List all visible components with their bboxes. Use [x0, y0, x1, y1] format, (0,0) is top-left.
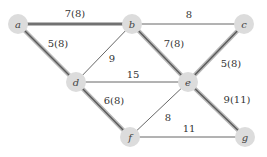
nodes-layer: abcdefg: [8, 14, 255, 147]
node-e: e: [178, 72, 198, 92]
flow-network-diagram: 7(8)5(8)897(8)5(8)156(8)89(11)11 abcdefg: [0, 0, 267, 157]
edge-label-a-d: 5(8): [48, 38, 69, 49]
node-c: c: [234, 14, 254, 34]
edge-d-f: [76, 82, 130, 137]
node-label-b: b: [129, 19, 135, 30]
edge-label-e-f: 8: [165, 112, 171, 123]
node-label-c: c: [241, 19, 247, 30]
edge-c-e: [188, 24, 244, 82]
node-a: a: [8, 14, 28, 34]
edge-e-f: [130, 82, 188, 137]
edge-label-a-b: 7(8): [65, 8, 86, 19]
edge-a-d: [18, 24, 76, 82]
edge-label-b-c: 8: [186, 9, 192, 20]
node-b: b: [122, 14, 142, 34]
node-label-e: e: [185, 77, 191, 88]
edge-label-e-g: 9(11): [224, 94, 251, 105]
edge-e-g: [188, 82, 245, 137]
node-d: d: [66, 72, 86, 92]
graph-canvas: 7(8)5(8)897(8)5(8)156(8)89(11)11 abcdefg: [0, 0, 267, 157]
node-label-d: d: [73, 77, 79, 88]
edge-label-c-e: 5(8): [221, 58, 242, 69]
edge-b-e: [132, 24, 188, 82]
edge-label-b-e: 7(8): [164, 38, 185, 49]
node-f: f: [120, 127, 140, 147]
node-label-a: a: [15, 19, 21, 30]
edge-b-d: [76, 24, 132, 82]
edge-label-d-e: 15: [127, 69, 140, 80]
node-g: g: [235, 127, 255, 147]
edge-label-d-f: 6(8): [104, 95, 125, 106]
node-label-g: g: [242, 132, 248, 143]
edge-label-b-d: 9: [109, 53, 115, 64]
edge-label-f-g: 11: [183, 123, 196, 134]
